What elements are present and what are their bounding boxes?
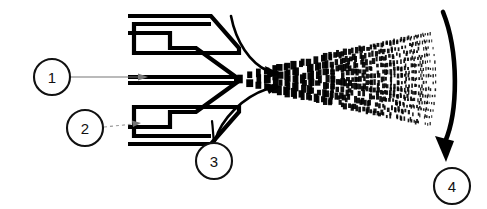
spray-droplet — [418, 91, 420, 95]
spray-droplet — [427, 95, 428, 98]
spray-droplet — [278, 79, 282, 85]
spray-droplet — [404, 57, 406, 60]
spray-droplet — [416, 35, 418, 38]
spray-droplet — [423, 47, 424, 51]
spray-droplet — [385, 98, 388, 102]
spray-droplet — [406, 51, 408, 54]
diagram-canvas: 1234 — [0, 0, 487, 209]
spray-droplet — [348, 103, 351, 108]
spray-droplet — [405, 77, 407, 81]
spray-droplet — [397, 74, 399, 79]
spray-droplet — [393, 87, 395, 91]
spray-droplet — [403, 103, 405, 107]
spray-droplet — [427, 46, 428, 48]
spray-droplet — [348, 49, 351, 55]
spray-droplet — [409, 50, 411, 54]
spray-droplet — [335, 59, 338, 65]
spray-droplet — [324, 90, 329, 97]
spray-droplet — [362, 73, 365, 78]
spray-droplet — [354, 83, 357, 90]
spray-droplet — [425, 33, 426, 35]
callout-3[interactable]: 3 — [196, 143, 232, 179]
spray-droplet — [285, 88, 290, 97]
spray-droplet — [430, 75, 431, 77]
spray-droplet — [346, 77, 350, 81]
spray-droplet — [328, 52, 332, 60]
spray-droplet — [389, 60, 391, 64]
spray-droplet — [390, 81, 392, 86]
spray-droplet — [432, 95, 433, 97]
spray-droplet — [370, 44, 372, 49]
spray-droplet — [389, 114, 391, 119]
spray-droplet — [386, 41, 388, 45]
spray-droplet — [412, 42, 414, 45]
spray-droplet — [375, 102, 378, 106]
spray-droplet — [360, 99, 363, 104]
spray-droplet — [387, 49, 390, 54]
spray-droplet — [417, 57, 419, 60]
spray-droplet — [423, 68, 424, 71]
spray-droplet — [420, 74, 421, 78]
spray-droplet — [434, 60, 435, 63]
spray-droplet — [394, 74, 396, 77]
spray-droplet — [420, 108, 422, 111]
spray-droplet — [339, 79, 342, 85]
spray-droplet — [423, 81, 425, 84]
callout-4[interactable]: 4 — [434, 168, 470, 204]
spray-droplet — [331, 80, 335, 86]
spray-droplet — [382, 83, 385, 88]
spray-droplet — [399, 102, 401, 106]
callout-1[interactable]: 1 — [34, 59, 70, 95]
spray-droplet — [369, 61, 372, 65]
spray-droplet — [358, 69, 361, 73]
spray-droplet — [426, 102, 427, 104]
spray-droplet — [408, 78, 410, 81]
callout-2[interactable]: 2 — [67, 110, 103, 146]
spray-droplet — [317, 62, 321, 69]
spray-droplet — [293, 67, 299, 75]
spray-droplet — [404, 116, 406, 120]
spray-droplet — [380, 49, 382, 53]
spray-droplet — [413, 49, 415, 53]
spray-droplet — [422, 60, 424, 64]
spray-droplet — [408, 110, 410, 114]
spray-droplet — [435, 81, 436, 84]
spray-droplet — [420, 68, 421, 71]
spray-droplet — [366, 108, 368, 114]
spray-droplet — [419, 93, 420, 97]
spray-droplet — [418, 85, 420, 88]
spray-droplet — [369, 80, 372, 84]
spray-droplet — [412, 64, 414, 67]
spray-droplet — [365, 80, 369, 85]
spray-droplet — [337, 95, 340, 99]
spray-droplet — [378, 103, 381, 108]
spray-droplet — [430, 32, 431, 35]
spray-droplet — [427, 60, 428, 62]
spray-droplet — [422, 94, 424, 98]
spray-droplet — [408, 35, 410, 39]
spray-droplet — [407, 98, 409, 101]
spray-droplet — [384, 49, 386, 52]
spray-droplet — [397, 88, 399, 92]
spray-droplet — [328, 99, 332, 105]
spray-droplet — [418, 47, 420, 51]
spray-droplet — [421, 55, 423, 57]
spray-droplet — [429, 116, 430, 118]
spray-droplet — [435, 88, 436, 91]
spray-droplet — [399, 53, 401, 57]
spray-droplet — [405, 63, 406, 67]
spray-droplet — [425, 61, 426, 64]
spray-droplet — [422, 41, 423, 45]
spray-droplet — [413, 105, 414, 108]
spray-droplet — [416, 41, 417, 44]
spray-droplet — [423, 108, 425, 111]
spray-droplet — [391, 47, 393, 51]
spray-droplet — [376, 57, 378, 62]
spray-droplet — [414, 36, 415, 40]
spray-droplet — [354, 69, 357, 74]
spray-droplet — [326, 83, 329, 89]
callout-1-label: 1 — [48, 69, 56, 86]
spray-droplet — [366, 74, 369, 79]
spray-droplet — [415, 91, 417, 95]
spray-droplet — [421, 84, 423, 88]
